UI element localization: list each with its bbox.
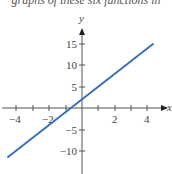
x-tick-label: 4 [144, 113, 150, 125]
y-tick-label: 15 [66, 38, 78, 50]
y-tick-label: 10 [66, 59, 78, 71]
y-axis-arrow-icon [79, 28, 85, 35]
y-tick-label: −5 [65, 124, 77, 136]
x-tick-label: −4 [9, 113, 21, 125]
y-tick-label: 5 [72, 81, 78, 93]
series-line [8, 44, 153, 157]
y-axis-label: y [78, 12, 84, 24]
x-axis-label: x [166, 101, 172, 113]
x-tick-label: 2 [112, 113, 118, 125]
y-tick-label: −10 [60, 145, 78, 157]
line-chart: x y −4 −2 2 4 15 10 5 −5 −10 [0, 0, 172, 174]
